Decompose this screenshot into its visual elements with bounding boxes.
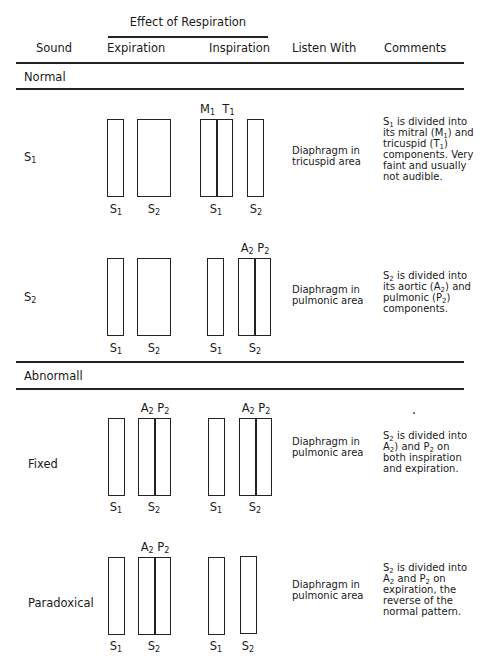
header-comments: Comments — [384, 41, 446, 55]
header-expiration: Expiration — [107, 41, 165, 55]
label-s2: S2 — [236, 639, 260, 653]
listen-with-s1: Diaphragm in tricuspid area — [292, 145, 372, 167]
sound-box-insp-s2-split — [239, 418, 272, 496]
header-bottom-rule — [16, 62, 464, 64]
sound-box-exp-s1 — [107, 258, 124, 336]
listen-with-paradoxical: Diaphragm in pulmonic area — [292, 579, 372, 601]
sound-box-insp-s2 — [240, 556, 257, 634]
label-s1: S1 — [204, 202, 228, 216]
section-normal-rule — [16, 88, 464, 90]
label-s2: S2 — [142, 202, 166, 216]
sound-box-exp-s2 — [137, 119, 171, 197]
sound-box-exp-s2-split — [138, 557, 171, 635]
row-sound-fixed: Fixed — [28, 457, 58, 471]
sound-box-exp-s2-split — [138, 418, 171, 496]
sound-box-insp-s1-split — [200, 119, 233, 197]
comment-fixed: S2 is divided into A2) and P2 on both in… — [383, 430, 475, 474]
label-s2: S2 — [142, 500, 166, 514]
label-s1: S1 — [204, 639, 228, 653]
row-sound-s1: S1 — [24, 150, 36, 164]
listen-with-fixed: Diaphragm in pulmonic area — [292, 436, 372, 458]
label-s2: S2 — [244, 202, 268, 216]
sound-box-insp-s1 — [208, 418, 225, 496]
sound-box-exp-s1 — [108, 418, 125, 496]
split-divider — [254, 259, 256, 335]
label-s1: S1 — [104, 500, 128, 514]
sound-box-insp-s2-split — [238, 258, 271, 336]
label-s2: S2 — [142, 639, 166, 653]
header-group-effect-of-respiration: Effect of Respiration — [108, 15, 268, 29]
sound-box-exp-s2 — [137, 258, 171, 336]
row-sound-s2: S2 — [24, 290, 36, 304]
sound-box-exp-s1 — [108, 557, 125, 635]
label-a2-p2: A2 P2 — [239, 401, 273, 415]
label-m1-t1: M1 T1 — [200, 102, 234, 116]
label-s1: S1 — [104, 202, 128, 216]
sound-box-insp-s1 — [207, 258, 224, 336]
header-listen-with: Listen With — [292, 41, 356, 55]
split-divider — [154, 419, 156, 495]
split-divider — [255, 419, 257, 495]
header-inspiration: Inspiration — [209, 41, 270, 55]
split-divider — [216, 120, 218, 196]
label-a2-p2: A2 P2 — [138, 540, 172, 554]
comment-s2: S2 is divided into its aortic (A2) and p… — [383, 270, 475, 314]
sound-box-exp-s1 — [107, 119, 124, 197]
comment-s1: S1 is divided into its mitral (M1) and t… — [383, 116, 475, 182]
label-a2-p2: A2 P2 — [138, 401, 172, 415]
label-s2: S2 — [142, 341, 166, 355]
header-group-rule — [108, 36, 268, 38]
stray-mark — [413, 412, 415, 414]
label-a2-p2: A2 P2 — [238, 241, 272, 255]
listen-with-s2: Diaphragm in pulmonic area — [292, 284, 372, 306]
label-s1: S1 — [204, 341, 228, 355]
label-s2: S2 — [243, 341, 267, 355]
row-sound-paradoxical: Paradoxical — [28, 596, 94, 610]
label-s2: S2 — [243, 500, 267, 514]
section-title-normal: Normal — [24, 70, 66, 84]
sound-box-insp-s2 — [247, 119, 264, 197]
section-abnormal-rule — [16, 388, 464, 390]
label-s1: S1 — [204, 500, 228, 514]
comment-paradoxical: S2 is divided into A2 and P2 on expirati… — [383, 562, 475, 617]
header-sound: Sound — [24, 41, 84, 55]
split-divider — [154, 558, 156, 634]
label-s1: S1 — [104, 341, 128, 355]
section-abnormal-top-rule — [16, 361, 464, 363]
label-s1: S1 — [104, 639, 128, 653]
section-title-abnormal: Abnormall — [24, 369, 83, 383]
sound-box-insp-s1 — [208, 557, 225, 635]
